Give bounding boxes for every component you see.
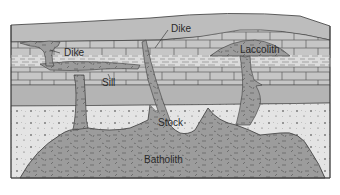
label-batholith: Batholith bbox=[144, 154, 183, 165]
label-laccolith: Laccolith bbox=[240, 44, 279, 55]
label-sill: Sill bbox=[102, 77, 115, 88]
label-stock: Stock bbox=[158, 117, 184, 128]
gray-stratum-band bbox=[11, 85, 330, 106]
geology-cross-section: Dike Dike Sill Laccolith Stock Batholith bbox=[0, 0, 340, 195]
label-dike-top: Dike bbox=[171, 23, 191, 34]
label-dike-left: Dike bbox=[64, 47, 84, 58]
